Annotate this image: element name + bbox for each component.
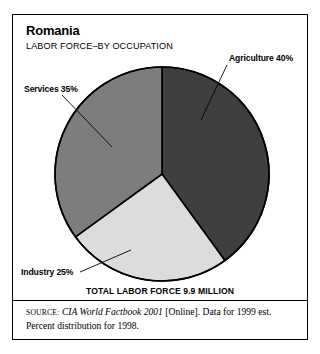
- pie-label-agriculture: Agriculture 40%: [229, 53, 293, 63]
- source-divider: [13, 300, 307, 301]
- source-note: SOURCE: CIA World Factbook 2001 [Online]…: [26, 306, 294, 332]
- pie-label-industry: Industry 25%: [21, 267, 73, 277]
- source-label: SOURCE:: [26, 308, 59, 317]
- figure-root: Romania LABOR FORCE–BY OCCUPATION Agricu…: [0, 0, 320, 354]
- source-publication: CIA World Factbook 2001: [62, 306, 163, 317]
- total-labor-force-caption: TOTAL LABOR FORCE 9.9 MILLION: [0, 286, 320, 296]
- pie-label-services: Services 35%: [24, 84, 78, 94]
